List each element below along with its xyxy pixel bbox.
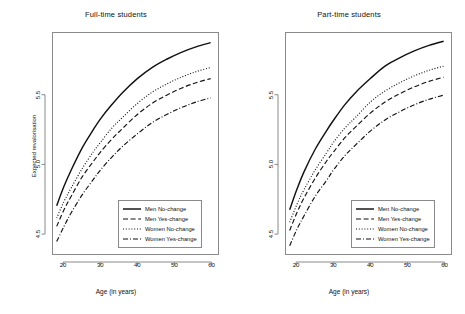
legend-label: Men No-change: [378, 205, 419, 213]
legend-label: Men Yes-change: [145, 215, 188, 223]
x-tick-label: 20: [60, 262, 67, 268]
legend-line-swatch: [122, 215, 142, 223]
x-tick-label: 60: [441, 262, 448, 268]
panel-title: Full-time students: [0, 10, 232, 19]
legend-line-swatch: [122, 205, 142, 213]
x-tick-label: 50: [404, 262, 411, 268]
x-tick-label: 30: [330, 262, 337, 268]
legend-label: Women Yes-change: [378, 235, 430, 243]
legend-line-swatch: [355, 205, 375, 213]
legend-line-swatch: [355, 215, 375, 223]
y-tick-label: 4.5: [35, 226, 41, 242]
series-line: [57, 68, 211, 219]
panel-title: Part-time students: [233, 10, 465, 19]
chart-panel-part-time: Part-time students Age (in years) Men No…: [233, 0, 465, 314]
chart-panel-full-time: Full-time students Age (in years) Expect…: [0, 0, 232, 314]
y-tick-label: 5.5: [268, 87, 274, 103]
legend: Men No-changeMen Yes-changeWomen No-chan…: [351, 200, 435, 248]
legend-line-swatch: [122, 235, 142, 243]
x-tick-label: 40: [367, 262, 374, 268]
x-tick-label: 60: [208, 262, 215, 268]
y-axis-title: Expected revalorisation: [31, 86, 37, 206]
legend-label: Women Yes-change: [145, 235, 197, 243]
legend-item: Women No-change: [355, 224, 430, 234]
x-axis-title: Age (in years): [0, 288, 232, 295]
legend-label: Men Yes-change: [378, 215, 421, 223]
legend-label: Women No-change: [378, 225, 428, 233]
x-tick-label: 20: [293, 262, 300, 268]
legend-item: Men No-change: [122, 204, 197, 214]
x-tick-label: 40: [134, 262, 141, 268]
x-tick-label: 50: [171, 262, 178, 268]
legend-item: Men No-change: [355, 204, 430, 214]
y-tick-label: 5.0: [35, 156, 41, 172]
series-line: [290, 41, 444, 210]
legend-line-swatch: [355, 225, 375, 233]
legend-item: Women No-change: [122, 224, 197, 234]
legend-line-swatch: [122, 225, 142, 233]
y-tick-label: 4.5: [268, 226, 274, 242]
series-line: [57, 43, 211, 206]
legend-item: Women Yes-change: [122, 234, 197, 244]
legend-label: Men No-change: [145, 205, 186, 213]
legend-line-swatch: [355, 235, 375, 243]
figure-canvas: Full-time students Age (in years) Expect…: [0, 0, 465, 314]
y-tick-label: 5.5: [35, 87, 41, 103]
legend-item: Women Yes-change: [355, 234, 430, 244]
x-axis-title: Age (in years): [233, 288, 465, 295]
series-line: [290, 66, 444, 222]
x-tick-label: 30: [97, 262, 104, 268]
legend: Men No-changeMen Yes-changeWomen No-chan…: [118, 200, 202, 248]
legend-label: Women No-change: [145, 225, 195, 233]
legend-item: Men Yes-change: [355, 214, 430, 224]
legend-item: Men Yes-change: [122, 214, 197, 224]
y-tick-label: 5.0: [268, 156, 274, 172]
